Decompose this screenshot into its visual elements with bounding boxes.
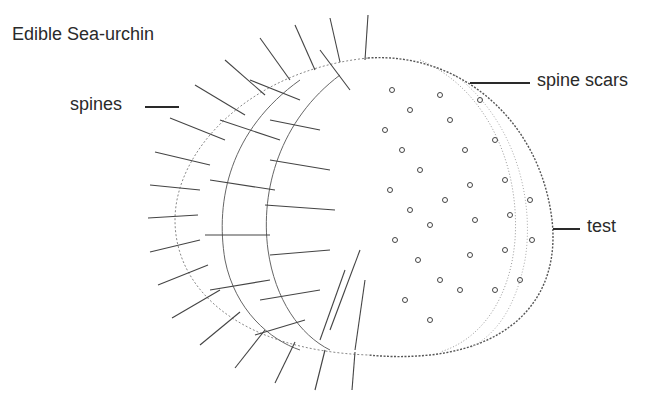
spines (148, 15, 368, 390)
leader-line-spines (145, 106, 179, 108)
spine-scars (383, 88, 535, 323)
sea-urchin-illustration (0, 0, 658, 394)
leader-line-test (553, 228, 580, 230)
test-shell (368, 58, 553, 357)
label-spine-scars: spine scars (537, 70, 628, 91)
spiny-body (175, 58, 368, 355)
label-spines: spines (70, 94, 122, 115)
label-test: test (587, 216, 616, 237)
leader-line-spine-scars (470, 82, 530, 84)
